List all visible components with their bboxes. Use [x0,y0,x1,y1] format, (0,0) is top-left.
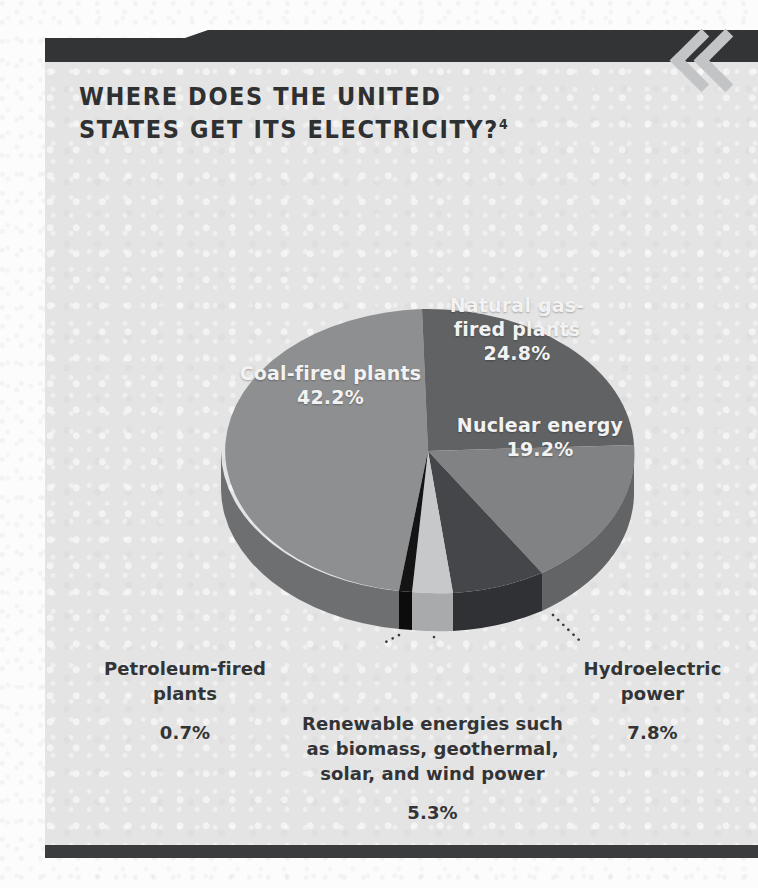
page-title-line-1: WHERE DOES THE UNITED [79,82,442,111]
pie-side-renewable [412,592,453,631]
pie-chart-svg [213,243,643,643]
callout-petroleum: Petroleum-fired plants 0.7% [75,656,295,745]
page-title: WHERE DOES THE UNITED STATES GET ITS ELE… [79,80,679,146]
callout-petroleum-line2: plants [153,683,217,704]
pie-side-petroleum [399,591,412,630]
leader-petroleum [343,635,399,643]
infographic-card: Natural gas- fired plants 24.8% Coal-fir… [45,38,758,845]
leader-hydro [553,615,603,643]
callout-renewable-line3: solar, and wind power [320,763,545,784]
callout-hydro-line1: Hydroelectric [584,658,722,679]
footer-band [45,845,758,858]
callout-renewable-line2: as biomass, geothermal, [306,738,558,759]
pie-chart: Natural gas- fired plants 24.8% Coal-fir… [213,243,643,643]
callout-renewable-line1: Renewable energies such [302,713,563,734]
page-title-footnote-marker: 4 [499,116,508,132]
callout-renewable: Renewable energies such as biomass, geot… [285,711,580,825]
callout-hydro-value: 7.8% [565,720,740,745]
callout-renewable-value: 5.3% [285,800,580,825]
page-title-line-2: STATES GET ITS ELECTRICITY? [79,115,499,144]
callout-hydroelectric: Hydroelectric power 7.8% [565,656,740,745]
pie-slice-natural-gas [422,309,634,451]
callout-petroleum-value: 0.7% [75,720,295,745]
callout-petroleum-line1: Petroleum-fired [104,658,266,679]
callout-hydro-line2: power [621,683,684,704]
